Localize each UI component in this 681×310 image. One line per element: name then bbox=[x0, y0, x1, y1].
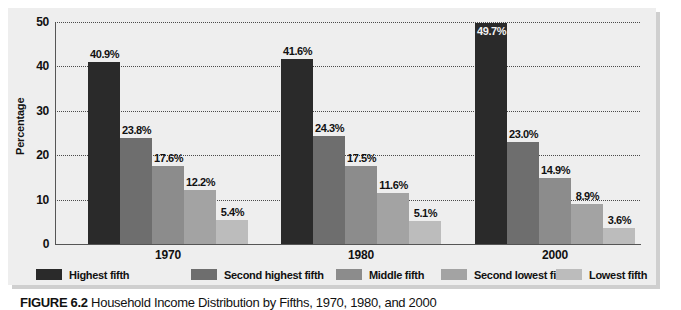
bar-value-label: 3.6% bbox=[608, 214, 631, 226]
legend-swatch bbox=[336, 269, 362, 280]
bar-value-label: 17.6% bbox=[154, 152, 183, 164]
bar[interactable]: 41.6% bbox=[281, 59, 313, 244]
bar-group: 40.9%23.8%17.6%12.2%5.4% bbox=[88, 22, 248, 244]
panel-shadow-bottom bbox=[12, 285, 660, 289]
figure-caption: FIGURE 6.2 Household Income Distribution… bbox=[20, 295, 660, 310]
y-axis-tick-label: 20 bbox=[36, 148, 49, 162]
bar[interactable]: 17.6% bbox=[152, 166, 184, 244]
caption-text: Household Income Distribution by Fifths,… bbox=[91, 295, 436, 310]
y-axis-tick-label: 40 bbox=[36, 59, 49, 73]
bar[interactable]: 23.0% bbox=[507, 142, 539, 244]
legend-item[interactable]: Lowest fifth bbox=[556, 265, 647, 279]
bar-group: 41.6%24.3%17.5%11.6%5.1% bbox=[281, 22, 441, 244]
figure-container: Percentage 01020304050 40.9%23.8%17.6%12… bbox=[0, 0, 681, 310]
legend-swatch bbox=[441, 269, 467, 280]
bar[interactable]: 5.4% bbox=[216, 220, 248, 244]
x-axis-group-label: 2000 bbox=[542, 248, 568, 262]
y-axis-tick-label: 0 bbox=[43, 237, 49, 251]
bar[interactable]: 3.6% bbox=[603, 228, 635, 244]
legend-label: Middle fifth bbox=[369, 269, 424, 281]
legend-item[interactable]: Highest fifth bbox=[36, 265, 129, 279]
y-axis-tick-label: 50 bbox=[36, 15, 49, 29]
bar[interactable]: 49.7% bbox=[475, 23, 507, 244]
bar-value-label: 17.5% bbox=[347, 152, 376, 164]
bar-value-label: 41.6% bbox=[283, 45, 312, 57]
bar[interactable]: 17.5% bbox=[345, 166, 377, 244]
bar[interactable]: 11.6% bbox=[377, 193, 409, 245]
bar[interactable]: 40.9% bbox=[88, 62, 120, 244]
caption-label: FIGURE 6.2 bbox=[20, 295, 88, 310]
bar-value-label: 23.0% bbox=[509, 128, 538, 140]
bar-value-label: 40.9% bbox=[90, 48, 119, 60]
panel-shadow-right bbox=[656, 12, 660, 285]
bar-value-label: 5.1% bbox=[414, 207, 437, 219]
bar[interactable]: 23.8% bbox=[120, 138, 152, 244]
bar-value-label: 49.7% bbox=[477, 25, 506, 37]
bar[interactable]: 8.9% bbox=[571, 204, 603, 244]
y-axis-tick-label: 10 bbox=[36, 193, 49, 207]
bar[interactable]: 5.1% bbox=[409, 221, 441, 244]
chart-legend: Highest fifthSecond highest fifthMiddle … bbox=[36, 265, 636, 279]
bar-value-label: 24.3% bbox=[315, 122, 344, 134]
legend-label: Highest fifth bbox=[69, 269, 129, 281]
plot-area: 01020304050 40.9%23.8%17.6%12.2%5.4%41.6… bbox=[55, 22, 640, 244]
y-axis-label: Percentage bbox=[14, 98, 26, 155]
legend-item[interactable]: Second lowest fifth bbox=[441, 265, 569, 279]
bar-value-label: 8.9% bbox=[576, 190, 599, 202]
legend-label: Second lowest fifth bbox=[474, 269, 569, 281]
bar[interactable]: 14.9% bbox=[539, 178, 571, 244]
bar-value-label: 12.2% bbox=[186, 176, 215, 188]
x-axis-group-label: 1970 bbox=[155, 248, 181, 262]
bar-value-label: 14.9% bbox=[541, 164, 570, 176]
bar-value-label: 5.4% bbox=[221, 206, 244, 218]
bar-group: 49.7%23.0%14.9%8.9%3.6% bbox=[475, 22, 635, 244]
bar-value-label: 23.8% bbox=[122, 124, 151, 136]
y-axis-tick-label: 30 bbox=[36, 104, 49, 118]
legend-label: Lowest fifth bbox=[589, 269, 647, 281]
legend-swatch bbox=[36, 269, 62, 280]
bar[interactable]: 24.3% bbox=[313, 136, 345, 244]
x-axis-group-label: 1980 bbox=[348, 248, 374, 262]
legend-label: Second highest fifth bbox=[224, 269, 324, 281]
bar-value-label: 11.6% bbox=[379, 179, 408, 191]
legend-swatch bbox=[556, 269, 582, 280]
x-axis-line bbox=[55, 244, 641, 245]
bar[interactable]: 12.2% bbox=[184, 190, 216, 244]
legend-item[interactable]: Second highest fifth bbox=[191, 265, 324, 279]
legend-item[interactable]: Middle fifth bbox=[336, 265, 424, 279]
legend-swatch bbox=[191, 269, 217, 280]
